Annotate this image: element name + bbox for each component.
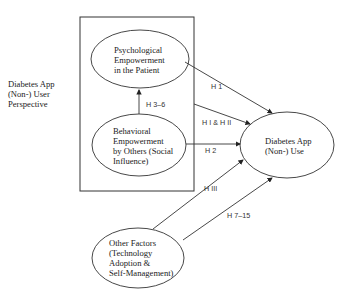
edge-h7-15: [183, 178, 272, 240]
edge-label-h7-15: H 7–15: [227, 211, 250, 220]
svg-text:Perspective: Perspective: [8, 99, 48, 109]
node-diabetes-app-use: Diabetes App (Non-) Use: [240, 112, 334, 178]
node-behavioral-empowerment: Behavioral Empowerment by Others (Social…: [92, 114, 186, 176]
svg-text:Diabetes App: Diabetes App: [265, 136, 312, 146]
research-model-diagram: Diabetes App (Non-) User Perspective Psy…: [0, 0, 344, 294]
edge-label-h3-6: H 3–6: [146, 100, 165, 109]
svg-text:Diabetes App: Diabetes App: [8, 79, 55, 89]
svg-text:by Others (Social: by Others (Social: [113, 146, 174, 156]
svg-text:Behavioral: Behavioral: [113, 126, 151, 136]
edge-label-h1-h2: H I & H II: [202, 118, 231, 127]
edge-label-h2: H 2: [205, 146, 216, 155]
svg-text:Self-Management): Self-Management): [109, 268, 174, 278]
svg-text:Psychological: Psychological: [114, 45, 163, 55]
svg-text:(Technology: (Technology: [109, 248, 153, 258]
svg-text:Influence): Influence): [113, 156, 148, 166]
edge-label-h3: H III: [204, 184, 217, 193]
svg-text:(Non-) User: (Non-) User: [8, 89, 50, 99]
svg-text:Adoption &: Adoption &: [109, 258, 151, 268]
svg-text:in the Patient: in the Patient: [114, 65, 160, 75]
edge-label-h1: H 1: [211, 82, 222, 91]
user-perspective-label: Diabetes App (Non-) User Perspective: [8, 79, 55, 109]
node-psychological-empowerment: Psychological Empowerment in the Patient: [91, 30, 189, 88]
svg-text:(Non-) Use: (Non-) Use: [265, 146, 304, 156]
node-other-factors: Other Factors (Technology Adoption & Sel…: [92, 228, 184, 288]
svg-text:Empowerment: Empowerment: [113, 136, 164, 146]
svg-text:Empowerment: Empowerment: [114, 55, 165, 65]
svg-text:Other Factors: Other Factors: [109, 238, 157, 248]
